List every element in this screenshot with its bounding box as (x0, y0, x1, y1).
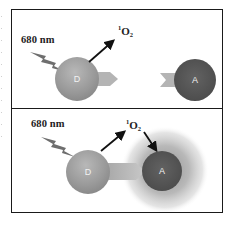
singlet-oxygen-label: 1O2 (126, 118, 141, 132)
panel-divider (11, 108, 223, 109)
diagram-figure: D A A D (0, 0, 235, 226)
o2-base: O (121, 25, 130, 37)
margin-dots (1, 16, 2, 137)
o2-base: O (129, 119, 138, 131)
o2-subscript: 2 (138, 125, 141, 132)
wavelength-label: 680 nm (31, 118, 65, 129)
singlet-oxygen-label: 1O2 (118, 24, 133, 38)
wavelength-label: 680 nm (21, 34, 55, 45)
o2-subscript: 2 (130, 31, 133, 38)
